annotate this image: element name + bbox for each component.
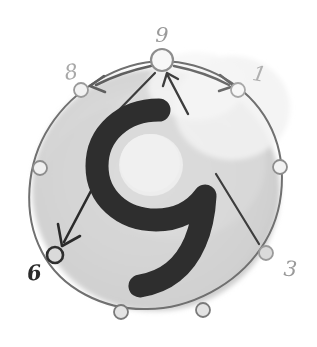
node-9[interactable] [151, 49, 173, 71]
clock-circle-diagram: 9 1 8 3 6 [0, 0, 317, 347]
node-7[interactable] [33, 161, 47, 175]
node-6[interactable] [47, 247, 63, 263]
label-8: 8 [63, 59, 80, 85]
node-2[interactable] [273, 160, 287, 174]
diagram-canvas: 9 1 8 3 6 [0, 0, 317, 347]
label-3: 3 [283, 257, 298, 282]
node-3[interactable] [259, 246, 273, 260]
node-1[interactable] [231, 83, 245, 97]
node-4[interactable] [196, 303, 210, 317]
label-9: 9 [155, 23, 168, 47]
node-8[interactable] [74, 83, 88, 97]
node-5[interactable] [114, 305, 128, 319]
label-6: 6 [26, 259, 44, 285]
